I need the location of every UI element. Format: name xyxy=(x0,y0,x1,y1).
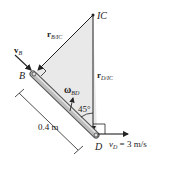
v-b-label: vB xyxy=(14,45,23,56)
v-b-arrow xyxy=(15,55,31,70)
v-d-label: vD = 3 m/s xyxy=(109,139,147,150)
pin-d xyxy=(94,133,98,137)
angle-label: 45° xyxy=(78,104,91,114)
kinematics-diagram: IC rB/IC rD/IC vB B D ωBD 45° 0.4 m vD =… xyxy=(0,0,175,169)
ic-point xyxy=(92,14,95,17)
point-b-label: B xyxy=(19,70,25,81)
point-d-label: D xyxy=(94,141,103,152)
ic-label: IC xyxy=(96,10,107,21)
r-d-ic-label: rD/IC xyxy=(97,70,114,81)
length-label: 0.4 m xyxy=(38,122,59,132)
r-b-ic-label: rB/IC xyxy=(47,29,63,40)
ic-triangle xyxy=(35,15,97,134)
pin-b xyxy=(32,72,36,76)
dimension-tick-b xyxy=(15,89,24,97)
